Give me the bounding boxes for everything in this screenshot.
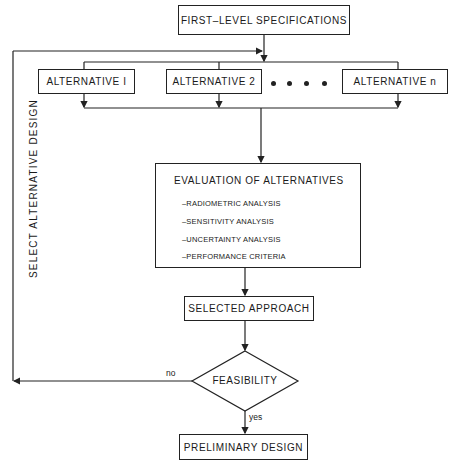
evaluation-item: –UNCERTAINTY ANALYSIS bbox=[182, 235, 281, 244]
alternative-1-node: ALTERNATIVE I bbox=[38, 69, 135, 94]
ellipsis-dot bbox=[271, 81, 276, 86]
yes-edge-label: yes bbox=[249, 412, 262, 422]
alternative-2-node: ALTERNATIVE 2 bbox=[166, 69, 262, 94]
evaluation-item: –PERFORMANCE CRITERIA bbox=[182, 252, 286, 261]
first-level-specifications-node: FIRST–LEVEL SPECIFICATIONS bbox=[178, 5, 350, 35]
evaluation-item: –SENSITIVITY ANALYSIS bbox=[182, 217, 274, 226]
alternative-n-node: ALTERNATIVE n bbox=[342, 69, 448, 94]
ellipsis-dot bbox=[322, 81, 327, 86]
selected-approach-node: SELECTED APPROACH bbox=[184, 296, 314, 321]
evaluation-of-alternatives-node: EVALUATION OF ALTERNATIVES –RADIOMETRIC … bbox=[155, 163, 361, 268]
preliminary-design-node: PRELIMINARY DESIGN bbox=[179, 434, 308, 460]
no-edge-label: no bbox=[166, 368, 175, 378]
ellipsis-dot bbox=[304, 81, 309, 86]
feasibility-decision-node: FEASIBILITY bbox=[192, 375, 298, 386]
ellipsis-dot bbox=[287, 81, 292, 86]
evaluation-item: –RADIOMETRIC ANALYSIS bbox=[182, 199, 281, 208]
select-alternative-design-label: SELECT ALTERNATIVE DESIGN bbox=[28, 99, 39, 278]
evaluation-title: EVALUATION OF ALTERNATIVES bbox=[174, 175, 344, 186]
